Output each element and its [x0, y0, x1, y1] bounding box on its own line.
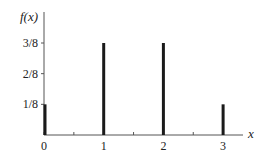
y-tick-label: 3/8	[23, 36, 38, 50]
x-tick-label: 0	[41, 139, 47, 153]
x-tick-label: 3	[220, 139, 226, 153]
x-tick-label: 2	[160, 139, 166, 153]
y-tick-label: 1/8	[23, 97, 38, 111]
pmf-chart: 1/82/83/80123xf(x)	[0, 0, 267, 161]
y-tick-label: 2/8	[23, 67, 38, 81]
x-tick-label: 1	[101, 139, 107, 153]
y-axis-label: f(x)	[20, 9, 38, 24]
x-axis-label: x	[247, 126, 254, 141]
